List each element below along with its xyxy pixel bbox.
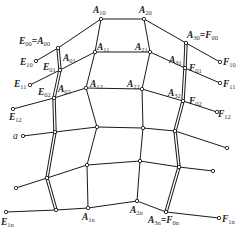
node-a24 — [138, 159, 141, 162]
row-5-seg-0 — [6, 210, 56, 212]
row-3-seg-1 — [55, 127, 97, 132]
node-a10 — [99, 17, 102, 20]
node-labels: E00=A00A10A20A30=F00E10E01A01A11A21A31F0… — [0, 5, 236, 228]
node-a12 — [84, 86, 87, 89]
row-3-seg-4 — [175, 131, 227, 148]
node-e-row4 — [14, 186, 17, 189]
node-a31-f01 — [183, 66, 186, 69]
node-a2n — [135, 199, 138, 202]
label-f01: F01 — [188, 63, 202, 74]
node-f-row3 — [225, 146, 228, 149]
label-a2n: A2n — [129, 205, 144, 216]
label-a21: A21 — [134, 42, 148, 53]
label-a30-eq-f00: A30=F00 — [186, 30, 218, 41]
row-4-seg-2 — [87, 161, 140, 165]
column-2-seg-1 — [142, 52, 150, 89]
label-e11: E11 — [13, 79, 27, 90]
label-a1n: A1n — [81, 212, 96, 223]
node-a13 — [95, 125, 98, 128]
node-a21 — [148, 50, 151, 53]
row-4-seg-4 — [179, 167, 213, 171]
node-a3n-f0n — [164, 210, 167, 213]
node-f-row4 — [211, 169, 214, 172]
node-r3 — [173, 129, 176, 132]
node-e10 — [34, 59, 37, 62]
column-2-seg-4 — [137, 161, 140, 201]
node-f10 — [218, 60, 221, 63]
node-e1n — [4, 210, 7, 213]
label-f12: F12 — [217, 109, 231, 120]
node-a14 — [85, 163, 88, 166]
label-a22: A22 — [126, 79, 140, 90]
node-e11 — [28, 83, 31, 86]
node-e12 — [11, 107, 14, 110]
row-4-seg-1 — [47, 165, 87, 178]
label-e00-eq-a00: E00=A00 — [18, 36, 50, 47]
label-f11: F11 — [222, 79, 236, 90]
node-e01-a01 — [58, 68, 61, 71]
label-f1n: F1n — [221, 214, 236, 225]
column-1-seg-2 — [86, 88, 97, 127]
column-2-seg-3 — [140, 128, 143, 161]
node-a20 — [142, 17, 145, 20]
mesh-edges — [6, 19, 227, 218]
row-3-seg-2 — [97, 127, 143, 128]
node-r4 — [177, 165, 180, 168]
node-a32-f02 — [181, 99, 184, 102]
label-a02: A02 — [57, 84, 71, 95]
node-a22 — [140, 87, 143, 90]
row-5-seg-4 — [166, 212, 219, 218]
node-e00-a00 — [56, 46, 59, 49]
row-3-seg-3 — [143, 128, 175, 131]
node-l4 — [45, 176, 48, 179]
node-a30-f00 — [184, 41, 187, 44]
label-a: a — [13, 131, 18, 141]
node-e02-a02 — [52, 96, 55, 99]
row-0-seg-3 — [144, 19, 186, 43]
row-0-seg-1 — [58, 19, 101, 48]
label-a3n-eq-f0n: A3n=F0n — [147, 215, 180, 226]
label-f02: F02 — [188, 96, 202, 107]
mesh-diagram: E00=A00A10A20A30=F00E10E01A01A11A21A31F0… — [0, 0, 240, 241]
label-a31: A31 — [168, 55, 182, 66]
node-a — [21, 134, 24, 137]
column-2-seg-2 — [142, 89, 143, 128]
label-a20: A20 — [138, 5, 152, 16]
node-a1n — [86, 206, 89, 209]
label-a32: A32 — [167, 88, 181, 99]
row-0-seg-0 — [36, 48, 58, 61]
row-4-seg-3 — [140, 161, 179, 167]
label-a01: A01 — [62, 53, 76, 64]
node-f11 — [218, 81, 221, 84]
label-e10: E10 — [19, 57, 33, 68]
row-5-seg-1 — [56, 208, 88, 210]
label-e01: E01 — [42, 62, 56, 73]
label-a10: A10 — [92, 5, 106, 16]
label-a11: A11 — [96, 42, 110, 53]
node-f1n — [217, 216, 220, 219]
row-3-seg-0 — [23, 132, 55, 136]
column-1-seg-4 — [87, 165, 88, 208]
node-ln — [54, 208, 57, 211]
label-e02: E02 — [37, 87, 51, 98]
node-l3 — [53, 130, 56, 133]
label-f10: F10 — [222, 57, 236, 68]
row-4-seg-0 — [16, 178, 47, 188]
label-a12: A12 — [89, 79, 103, 90]
column-1-seg-3 — [87, 127, 97, 165]
label-e1n: E1n — [0, 217, 15, 228]
row-0-seg-4 — [186, 43, 220, 62]
row-2-seg-0 — [13, 98, 54, 109]
label-e12: E12 — [8, 112, 22, 123]
node-a23 — [141, 126, 144, 129]
